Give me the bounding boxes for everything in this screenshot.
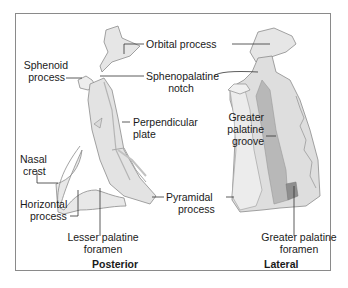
label-lesser-palatine-foramen-line2: foramen <box>60 243 146 255</box>
label-sphenopalatine-notch-line2: notch <box>146 82 216 94</box>
label-greater-palatine-foramen-line1: Greater palatine <box>254 231 344 243</box>
label-sphenoid-process-line2: process <box>20 71 65 83</box>
label-pyramidal-process-line1: Pyramidal <box>166 191 213 203</box>
label-orbital-process: Orbital process <box>146 38 217 50</box>
label-sphenoid-process-line1: Sphenoid <box>20 59 68 71</box>
caption-posterior-view: Posterior <box>92 258 138 270</box>
label-greater-palatine-groove-line1: Greater <box>222 111 264 123</box>
label-sphenopalatine-notch-line1: Sphenopalatine <box>146 70 219 82</box>
label-perpendicular-plate-line1: Perpendicular <box>133 116 198 128</box>
label-nasal-crest-line1: Nasal <box>20 153 47 165</box>
caption-lateral-view: Lateral <box>264 258 298 270</box>
label-greater-palatine-groove-line2: palatine <box>218 123 264 135</box>
label-greater-palatine-groove-line3: groove <box>222 135 264 147</box>
label-greater-palatine-foramen-line2: foramen <box>254 243 344 255</box>
label-pyramidal-process-line2: process <box>178 203 215 215</box>
label-nasal-crest-line2: crest <box>23 165 46 177</box>
label-lesser-palatine-foramen-line1: Lesser palatine <box>60 231 146 243</box>
label-horizontal-process-line2: process <box>30 210 67 222</box>
label-horizontal-process-line1: Horizontal <box>20 198 67 210</box>
label-perpendicular-plate-line2: plate <box>133 128 156 140</box>
